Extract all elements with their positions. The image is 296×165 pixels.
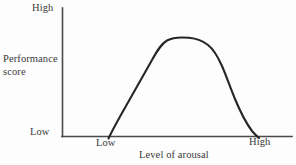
y-axis-title-line-2: score (3, 66, 26, 77)
chart-container: High Low Low High Performancescore Level… (0, 0, 296, 165)
x-axis-tick-label-high: High (249, 136, 270, 148)
y-axis-title: Performancescore (3, 53, 61, 78)
y-axis-tick-label-low: Low (30, 126, 50, 138)
performance-curve (109, 37, 260, 138)
x-axis-tick-label-low: Low (96, 137, 116, 149)
y-axis-title-line-1: Performance (3, 53, 58, 64)
x-axis-title: Level of arousal (139, 149, 209, 161)
y-axis-tick-label-high: High (32, 2, 53, 14)
